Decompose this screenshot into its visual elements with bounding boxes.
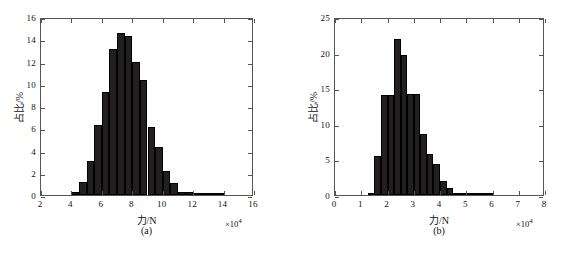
x-tick-mark (440, 191, 441, 195)
y-tick-mark (539, 161, 543, 162)
x-tick-label: 16 (248, 199, 257, 209)
y-tick-label: 20 (308, 49, 330, 59)
bars-a (41, 19, 252, 195)
x-tick-label: 1 (358, 199, 363, 209)
x-tick-mark (254, 19, 255, 23)
x-tick-label: 4 (68, 199, 73, 209)
histogram-bar (87, 161, 95, 195)
y-tick-mark (335, 161, 339, 162)
x-tick-mark (163, 191, 164, 195)
x-tick-mark (466, 19, 467, 23)
x-tick-label: 2 (384, 199, 389, 209)
histogram-bar (79, 182, 87, 195)
histogram-bar (186, 192, 194, 195)
x-tick-mark (493, 191, 494, 195)
y-tick-label: 14 (14, 35, 36, 45)
x-tick-label: 6 (98, 199, 103, 209)
histogram-bar (125, 36, 133, 195)
y-tick-mark (41, 153, 45, 154)
y-tick-label: 16 (14, 13, 36, 23)
x-tick-mark (545, 19, 546, 23)
panel-a: 246810121416 0246810121416 力/N 占比/% ×104… (0, 0, 291, 255)
x-tick-mark (163, 19, 164, 23)
y-tick-mark (41, 41, 45, 42)
x-tick-label: 6 (489, 199, 494, 209)
y-tick-mark (41, 175, 45, 176)
x-tick-label: 8 (542, 199, 547, 209)
exponent-power: 4 (238, 217, 242, 225)
histogram-bar (216, 193, 224, 195)
exponent-power: 4 (529, 217, 533, 225)
y-tick-mark (41, 197, 45, 198)
histogram-bar (163, 171, 171, 195)
panel-b: 012345678 0510152025 力/N 占比/% ×104 (b) (291, 0, 582, 255)
x-tick-label: 7 (515, 199, 520, 209)
x-tick-mark (361, 191, 362, 195)
x-tick-mark (71, 19, 72, 23)
y-tick-mark (41, 108, 45, 109)
y-tick-mark (335, 126, 339, 127)
y-tick-mark (335, 19, 339, 20)
y-tick-label: 25 (308, 13, 330, 23)
x-tick-mark (545, 191, 546, 195)
x-tick-label: 4 (437, 199, 442, 209)
x-tick-mark (102, 191, 103, 195)
x-tick-mark (493, 19, 494, 23)
histogram-bar (148, 127, 156, 195)
y-tick-mark (539, 90, 543, 91)
x-tick-label: 3 (410, 199, 415, 209)
histogram-bar (102, 92, 110, 195)
panel-caption-a: (a) (40, 225, 253, 236)
x-tick-mark (132, 191, 133, 195)
figure-root: 246810121416 0246810121416 力/N 占比/% ×104… (0, 0, 582, 255)
y-tick-mark (248, 175, 252, 176)
y-tick-mark (335, 55, 339, 56)
x-tick-label: 8 (129, 199, 134, 209)
y-axis-title-b: 占比/% (305, 78, 320, 138)
y-tick-mark (248, 130, 252, 131)
y-tick-label: 4 (14, 147, 36, 157)
y-tick-mark (248, 64, 252, 65)
x-tick-mark (414, 19, 415, 23)
histogram-bar (94, 125, 102, 195)
y-tick-mark (41, 64, 45, 65)
y-tick-label: 12 (14, 58, 36, 68)
y-tick-mark (539, 19, 543, 20)
x-tick-mark (440, 19, 441, 23)
y-tick-mark (335, 90, 339, 91)
y-tick-mark (248, 108, 252, 109)
x-tick-mark (254, 191, 255, 195)
plot-frame-a (40, 18, 253, 196)
x-tick-mark (388, 191, 389, 195)
x-tick-label: 12 (187, 199, 196, 209)
y-tick-mark (248, 86, 252, 87)
y-axis-title-a: 占比/% (11, 78, 26, 138)
histogram-bar (109, 49, 117, 195)
x-tick-mark (335, 191, 336, 195)
x-tick-mark (388, 19, 389, 23)
y-tick-mark (248, 41, 252, 42)
y-tick-mark (248, 153, 252, 154)
y-tick-label: 0 (308, 191, 330, 201)
histogram-bar (155, 147, 163, 195)
x-tick-mark (71, 191, 72, 195)
x-tick-label: 2 (38, 199, 43, 209)
y-tick-mark (41, 86, 45, 87)
x-tick-mark (466, 191, 467, 195)
y-tick-label: 2 (14, 169, 36, 179)
x-tick-mark (224, 19, 225, 23)
x-tick-mark (41, 191, 42, 195)
x-tick-mark (193, 191, 194, 195)
y-tick-mark (539, 197, 543, 198)
bars-b (335, 19, 543, 195)
y-tick-mark (248, 19, 252, 20)
y-tick-mark (539, 55, 543, 56)
histogram-bar (208, 193, 216, 195)
y-tick-label: 5 (308, 155, 330, 165)
histogram-bar (117, 33, 125, 195)
x-tick-mark (132, 19, 133, 23)
histogram-bar (140, 80, 148, 195)
y-tick-mark (539, 126, 543, 127)
x-tick-mark (414, 191, 415, 195)
histogram-bar (170, 183, 178, 195)
